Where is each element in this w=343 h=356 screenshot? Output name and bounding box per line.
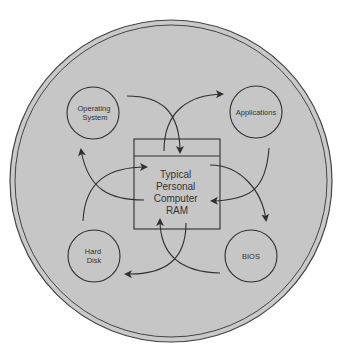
label-applications: Applications <box>236 108 277 117</box>
label-bios: BIOS <box>242 252 260 261</box>
ram-diagram: Operating System Applications Hard Disk … <box>0 0 343 356</box>
label-operating-system: Operating System <box>77 104 112 122</box>
label-hard-disk: Hard Disk <box>85 247 103 265</box>
